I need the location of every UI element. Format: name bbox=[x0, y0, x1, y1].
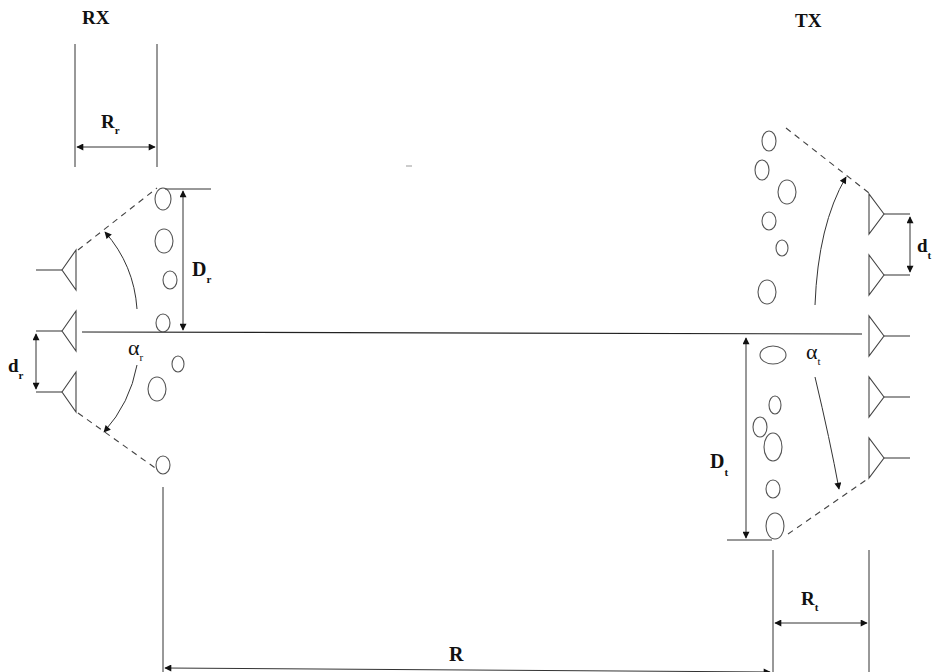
scatterer bbox=[156, 314, 170, 332]
tx-antenna bbox=[869, 377, 910, 417]
tx-aperture-upper-dashed bbox=[786, 128, 869, 193]
tx-aperture-lower-dashed bbox=[788, 478, 869, 534]
range-arrow bbox=[165, 668, 770, 672]
scatterer bbox=[758, 280, 776, 304]
scatterer bbox=[776, 240, 788, 256]
rx-spacing-label: dr bbox=[8, 355, 24, 381]
rx-label: RX bbox=[82, 7, 110, 28]
scatterer bbox=[769, 396, 781, 414]
tx-spacing-dimension: dt bbox=[910, 217, 932, 272]
rx-antenna bbox=[36, 372, 76, 412]
rx-spacing-dimension: dr bbox=[8, 334, 36, 389]
scatterer bbox=[766, 513, 784, 539]
tx-width-dimension: Rt bbox=[773, 550, 869, 672]
scatterer bbox=[762, 212, 776, 230]
rx-angle-arc-upper bbox=[105, 232, 137, 309]
scatterer bbox=[760, 346, 786, 364]
tx-antenna bbox=[869, 316, 910, 356]
rx-aperture-lower-dashed bbox=[78, 413, 158, 470]
scatterer bbox=[156, 456, 170, 474]
range-label: R bbox=[449, 643, 464, 665]
rx-antenna-array bbox=[36, 250, 76, 412]
rx-scatterer-cluster bbox=[148, 188, 184, 474]
rx-depth-dimension: Dr bbox=[165, 189, 211, 330]
rx-depth-label: Dr bbox=[192, 258, 211, 285]
tx-antenna bbox=[869, 438, 910, 478]
scatterer bbox=[148, 377, 166, 401]
tx-angle-label: αt bbox=[806, 339, 821, 367]
scatterer bbox=[762, 131, 776, 151]
rx-angle-arc-lower bbox=[104, 365, 137, 432]
tx-label: TX bbox=[795, 10, 822, 31]
tx-antenna bbox=[869, 194, 910, 234]
rx-width-label: Rr bbox=[101, 111, 120, 136]
tx-angle-arc-lower bbox=[815, 377, 839, 489]
tx-scatterer-cluster bbox=[753, 131, 796, 539]
scatterer bbox=[155, 229, 173, 253]
scatterer bbox=[155, 188, 171, 210]
tx-antenna bbox=[869, 255, 910, 295]
rx-aperture-upper-dashed bbox=[78, 188, 157, 250]
scatterer bbox=[778, 180, 796, 204]
tx-angle-arc-upper bbox=[815, 177, 846, 305]
scatterer bbox=[755, 160, 769, 180]
rx-width-dimension: Rr bbox=[75, 44, 157, 167]
los-axis-line bbox=[82, 332, 862, 334]
rx-angle-label: αr bbox=[128, 335, 144, 363]
tx-width-label: Rt bbox=[801, 588, 819, 613]
channel-diagram: RX TX Rr Dr dr bbox=[0, 0, 935, 672]
tx-antenna-array bbox=[869, 194, 910, 478]
tx-spacing-label: dt bbox=[917, 235, 932, 261]
rx-antenna bbox=[36, 250, 76, 290]
scatterer bbox=[172, 356, 184, 372]
rx-antenna bbox=[36, 311, 76, 351]
tx-depth-label: Dt bbox=[710, 450, 728, 478]
scatterer bbox=[766, 480, 780, 498]
scatterer bbox=[753, 417, 767, 437]
scatterer bbox=[764, 433, 782, 461]
tx-depth-dimension: Dt bbox=[710, 338, 772, 540]
scatterer bbox=[163, 271, 177, 289]
range-dimension: R bbox=[165, 643, 770, 672]
